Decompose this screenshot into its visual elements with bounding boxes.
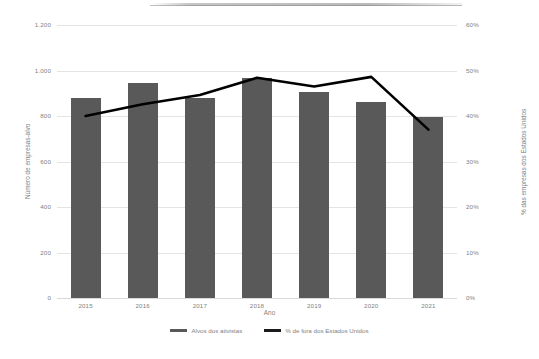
y-axis-right-tick-label: 0%	[466, 294, 506, 301]
x-axis-title: Ano	[0, 309, 539, 316]
plot-area	[57, 25, 457, 298]
y-axis-left-tick-label: 800	[11, 112, 51, 119]
chart-legend: Alvos dos ativistas% de fora dos Estados…	[0, 327, 539, 334]
y-axis-right-tick-label: 10%	[466, 249, 506, 256]
y-axis-right-tick-label: 30%	[466, 158, 506, 165]
line-series	[57, 25, 457, 298]
chart-container: 02004006008001.0001.200 0%10%20%30%40%50…	[0, 0, 539, 359]
x-axis-tick-label: 2019	[284, 302, 344, 309]
y-axis-right-title: % das empresas dos Estados Unidos	[520, 108, 527, 214]
y-axis-right-tick-label: 20%	[466, 203, 506, 210]
x-axis-tick-label: 2018	[227, 302, 287, 309]
y-axis-left-title: Número de empresas-alvo	[24, 124, 31, 199]
y-axis-left-tick-label: 200	[11, 249, 51, 256]
y-axis-left-tick-label: 400	[11, 203, 51, 210]
y-axis-left-tick-label: 0	[11, 294, 51, 301]
x-axis-tick-label: 2020	[341, 302, 401, 309]
x-axis-tick-label: 2015	[56, 302, 116, 309]
x-axis-tick-label: 2016	[113, 302, 173, 309]
gridline	[57, 298, 457, 299]
legend-label: % de fora dos Estados Unidos	[285, 327, 368, 334]
legend-item[interactable]: % de fora dos Estados Unidos	[264, 327, 368, 334]
y-axis-right-tick-label: 50%	[466, 67, 506, 74]
legend-swatch-icon	[264, 329, 281, 332]
y-axis-left-tick-label: 600	[11, 158, 51, 165]
y-axis-left-tick-label: 1.200	[11, 21, 51, 28]
y-axis-left-tick-label: 1.000	[11, 67, 51, 74]
x-axis-tick-label: 2021	[398, 302, 458, 309]
legend-swatch-icon	[170, 329, 187, 332]
legend-item[interactable]: Alvos dos ativistas	[170, 327, 242, 334]
trend-polyline	[86, 77, 429, 130]
x-axis-tick-label: 2017	[170, 302, 230, 309]
scan-artifact-line	[150, 5, 462, 6]
y-axis-right-tick-label: 40%	[466, 112, 506, 119]
legend-label: Alvos dos ativistas	[191, 327, 242, 334]
y-axis-right-tick-label: 60%	[466, 21, 506, 28]
